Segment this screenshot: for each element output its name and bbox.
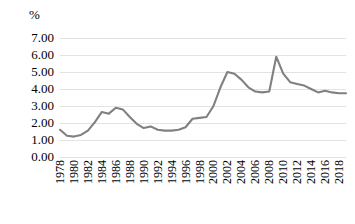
x-axis-tick-label: 1984 (96, 160, 108, 184)
y-axis-tick-label: 1.00 (31, 132, 54, 148)
x-axis-tick-label: 1986 (110, 160, 122, 184)
line-series-path (60, 57, 346, 137)
y-axis-tick-label: 6.00 (31, 47, 54, 63)
x-axis-tick-label: 2018 (333, 160, 345, 184)
x-axis-tick-label: 2006 (249, 160, 261, 184)
x-axis-tick-label: 2004 (235, 160, 247, 184)
chart-container: % 7.006.005.004.003.002.001.000.00 19781… (0, 0, 355, 224)
x-axis-tick-label: 1980 (68, 160, 80, 184)
y-axis-tick-label: 5.00 (31, 64, 54, 80)
x-axis-tick-label: 2000 (207, 160, 219, 184)
x-axis-tick-label: 2012 (291, 160, 303, 184)
y-axis-tick-label: 2.00 (31, 115, 54, 131)
y-axis-tick-labels: 7.006.005.004.003.002.001.000.00 (0, 0, 60, 224)
y-axis-tick-label: 3.00 (31, 98, 54, 114)
x-axis-tick-label: 1992 (152, 160, 164, 184)
x-axis-tick-label: 2008 (263, 160, 275, 184)
plot-area (60, 38, 346, 157)
x-axis-tick-label: 1990 (138, 160, 150, 184)
y-axis-tick-label: 4.00 (31, 81, 54, 97)
x-axis-tick-label: 1988 (124, 160, 136, 184)
x-axis-tick-label: 2002 (221, 160, 233, 184)
y-axis-tick-label: 0.00 (31, 149, 54, 165)
x-axis-tick-label: 2010 (277, 160, 289, 184)
x-axis-tick-label: 2014 (305, 160, 317, 184)
x-axis-tick-label: 1978 (54, 160, 66, 184)
x-axis-tick-labels: 1978198019821984198619881990199219941996… (60, 160, 346, 224)
x-axis-tick-label: 1996 (180, 160, 192, 184)
y-axis-tick-label: 7.00 (31, 30, 54, 46)
line-series-svg (60, 38, 346, 157)
x-axis-tick-label: 1982 (82, 160, 94, 184)
x-axis-tick-label: 2016 (319, 160, 331, 184)
gridline (60, 157, 346, 158)
x-axis-tick-label: 1994 (166, 160, 178, 184)
x-axis-tick-label: 1998 (194, 160, 206, 184)
